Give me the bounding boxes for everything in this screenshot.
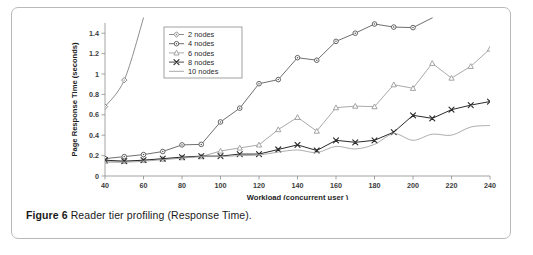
x-axis-tick-label: 140 bbox=[292, 181, 304, 190]
legend-item-label: 10 nodes bbox=[188, 67, 219, 76]
chart-series bbox=[102, 18, 143, 109]
y-axis-title: Page Response Time (seconds) bbox=[70, 42, 79, 157]
y-axis-tick-label: 1 bbox=[95, 70, 99, 79]
y-axis-tick-label: 0.2 bbox=[89, 151, 99, 160]
chart-series bbox=[103, 99, 493, 164]
chart-series bbox=[102, 46, 492, 163]
figure-container: 00.20.40.60.811.21.440608010012014016018… bbox=[11, 7, 511, 239]
line-chart: 00.20.40.60.811.21.440608010012014016018… bbox=[12, 8, 512, 200]
y-axis-tick-label: 0 bbox=[95, 172, 99, 181]
figure-caption: Figure 6 Reader tier profiling (Response… bbox=[26, 209, 496, 221]
x-axis-tick-label: 160 bbox=[330, 181, 342, 190]
x-axis-tick-label: 240 bbox=[484, 181, 496, 190]
legend-item-label: 2 nodes bbox=[188, 30, 215, 39]
legend-item-label: 4 nodes bbox=[188, 39, 215, 48]
chart-legend: 2 nodes4 nodes6 nodes8 nodes10 nodes bbox=[164, 27, 242, 78]
y-axis-tick-label: 1.2 bbox=[89, 49, 99, 58]
y-axis-tick-label: 0.4 bbox=[89, 131, 99, 140]
legend-item-label: 8 nodes bbox=[188, 58, 215, 67]
x-axis-tick-label: 180 bbox=[369, 181, 381, 190]
x-axis-tick-label: 80 bbox=[178, 181, 186, 190]
y-axis-tick-label: 0.8 bbox=[89, 90, 99, 99]
x-axis-tick-label: 220 bbox=[446, 181, 458, 190]
legend-item-label: 6 nodes bbox=[188, 49, 215, 58]
x-axis-tick-label: 120 bbox=[253, 181, 265, 190]
figure-caption-text: Reader tier profiling (Response Time). bbox=[68, 209, 252, 221]
x-axis-tick-label: 60 bbox=[140, 181, 148, 190]
x-axis-tick-label: 100 bbox=[215, 181, 227, 190]
figure-caption-lead: Figure 6 bbox=[26, 209, 68, 221]
chart-plot-area: 00.20.40.60.811.21.440608010012014016018… bbox=[12, 8, 512, 200]
x-axis-tick-label: 40 bbox=[101, 181, 109, 190]
x-axis-tick-label: 200 bbox=[407, 181, 419, 190]
y-axis-tick-label: 0.6 bbox=[89, 110, 99, 119]
chart-series-group bbox=[102, 18, 492, 164]
chart-axes: 00.20.40.60.811.21.440608010012014016018… bbox=[89, 23, 496, 190]
x-axis-title: Workload (concurrent user ) bbox=[247, 193, 349, 200]
y-axis-tick-label: 1.4 bbox=[89, 29, 99, 38]
